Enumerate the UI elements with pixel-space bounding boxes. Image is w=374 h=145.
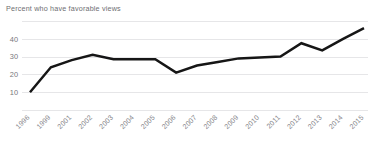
x-tick-label: 2012: [286, 114, 303, 131]
x-tick-label: 2005: [140, 114, 157, 131]
x-tick-label: 2006: [160, 114, 177, 131]
x-tick-label: 2008: [202, 114, 219, 131]
y-tick-label: 40: [10, 35, 18, 44]
x-tick-label: 2011: [265, 114, 282, 131]
favorable-views-line-chart: Percent who have favorable views 1020304…: [0, 0, 374, 145]
x-tick-label: 1996: [14, 114, 31, 131]
x-tick-label: 2004: [119, 114, 136, 131]
x-axis-tick-labels: 1996199920012002200320042005200620072008…: [14, 114, 365, 131]
x-tick-label: 2010: [244, 114, 261, 131]
y-tick-label: 10: [10, 88, 18, 97]
y-tick-label: 20: [10, 70, 18, 79]
y-tick-label: 30: [10, 52, 18, 61]
x-tick-label: 1999: [35, 114, 52, 131]
x-tick-label: 2001: [56, 114, 73, 131]
x-tick-label: 2007: [181, 114, 198, 131]
x-tick-label: 2003: [98, 114, 115, 131]
x-tick-label: 2002: [77, 114, 94, 131]
chart-canvas: 10203040 1996199920012002200320042005200…: [0, 0, 374, 145]
x-tick-label: 2015: [348, 114, 365, 131]
y-axis-tick-labels: 10203040: [10, 35, 18, 97]
x-tick-label: 2013: [307, 114, 324, 131]
plot-area: 10203040 1996199920012002200320042005200…: [0, 0, 374, 145]
data-series-line: [30, 28, 364, 92]
x-tick-label: 2014: [327, 114, 344, 131]
x-tick-label: 2009: [223, 114, 240, 131]
